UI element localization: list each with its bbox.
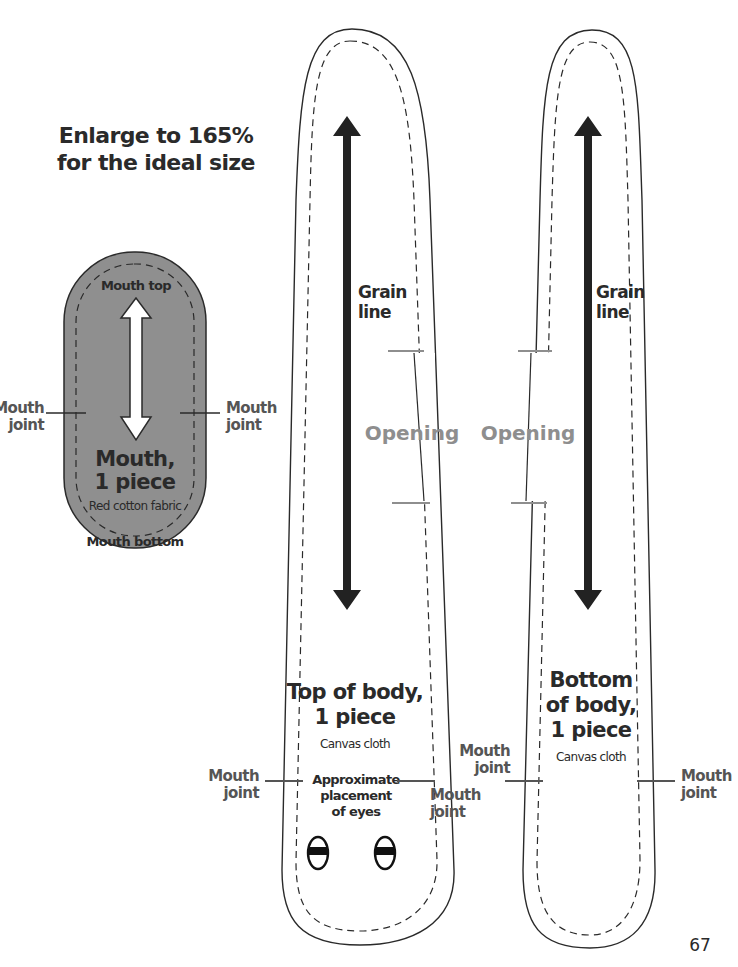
top-body-left-joint-line-2: joint <box>223 784 260 802</box>
top-body-opening-label: Opening <box>365 421 460 445</box>
mouth-title-line-1: Mouth, <box>95 447 175 471</box>
enlarge-instruction: Enlarge to 165% for the ideal size <box>57 123 255 175</box>
bottom-body-title-line-2: of body, <box>546 693 637 717</box>
top-body-left-joint-line-1: Mouth <box>208 767 259 785</box>
bottom-body-pattern-piece: Opening Grain line Bottom of body, 1 pie… <box>459 30 732 948</box>
mouth-top-label: Mouth top <box>101 278 171 293</box>
top-body-grain-line-2: line <box>358 302 391 322</box>
instruction-line-1: Enlarge to 165% <box>59 123 254 148</box>
bottom-body-grain-line-1: Grain <box>596 282 645 302</box>
bottom-body-right-joint-line-1: Mouth <box>681 767 732 785</box>
bottom-body-grain-line-2: line <box>596 302 629 322</box>
mouth-pattern-piece: Mouth top Mouth, 1 piece Red cotton fabr… <box>0 252 277 549</box>
top-body-material: Canvas cloth <box>320 737 390 751</box>
bottom-body-material: Canvas cloth <box>556 750 626 764</box>
page-number: 67 <box>689 935 711 955</box>
mouth-left-joint-line-1: Mouth <box>0 399 44 417</box>
top-body-eyes-line-2: placement <box>320 788 392 803</box>
eye-right-icon <box>375 837 395 869</box>
bottom-body-opening-label: Opening <box>481 421 576 445</box>
top-body-right-joint-line-1: Mouth <box>430 786 481 804</box>
bottom-body-title-line-1: Bottom <box>549 668 632 692</box>
mouth-bottom-label: Mouth bottom <box>86 534 183 549</box>
top-body-grain-line-1: Grain <box>358 282 407 302</box>
mouth-left-joint-line-2: joint <box>8 416 45 434</box>
eye-left-icon <box>308 837 328 869</box>
mouth-right-joint-line-2: joint <box>225 416 262 434</box>
top-body-eyes-line-1: Approximate <box>312 772 400 787</box>
top-body-title-line-1: Top of body, <box>287 680 424 704</box>
bottom-body-left-joint-line-2: joint <box>474 759 511 777</box>
instruction-line-2: for the ideal size <box>57 150 255 175</box>
bottom-body-title-line-3: 1 piece <box>551 718 632 742</box>
top-body-eyes-line-3: of eyes <box>332 804 382 819</box>
mouth-right-joint-line-1: Mouth <box>226 399 277 417</box>
bottom-body-right-joint-line-2: joint <box>680 784 717 802</box>
mouth-material: Red cotton fabric <box>89 499 182 513</box>
mouth-title-line-2: 1 piece <box>95 470 176 494</box>
top-body-title-line-2: 1 piece <box>315 705 396 729</box>
pattern-sheet: Enlarge to 165% for the ideal size Mouth… <box>0 0 738 967</box>
top-body-right-joint-line-2: joint <box>429 803 466 821</box>
bottom-body-left-joint-line-1: Mouth <box>459 742 510 760</box>
